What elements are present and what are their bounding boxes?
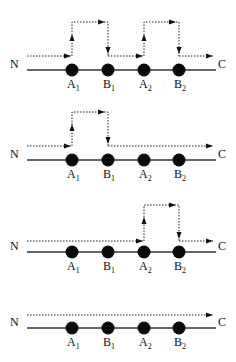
- node-b1: [102, 322, 115, 335]
- arrowhead-icon: [142, 34, 147, 41]
- arrowhead-icon: [70, 34, 75, 41]
- arrowhead-icon: [136, 239, 143, 244]
- node-label-b2: B2: [174, 259, 186, 275]
- node-b2: [173, 322, 186, 335]
- bypass-diagram: NCA1B1A2B2NCA1B1A2B2NCA1B1A2B2NCA1B1A2B2: [0, 0, 236, 362]
- node-b2: [173, 64, 186, 77]
- node-label-b1: B1: [103, 259, 115, 275]
- end-label: C: [218, 147, 226, 161]
- node-label-b2: B2: [174, 77, 186, 93]
- node-b1: [102, 154, 115, 167]
- node-b2: [173, 154, 186, 167]
- node-b1: [102, 64, 115, 77]
- node-a2: [138, 154, 151, 167]
- node-a2: [138, 246, 151, 259]
- node-label-a1: A1: [67, 335, 80, 351]
- node-a1: [66, 64, 79, 77]
- node-label-a2: A2: [139, 259, 152, 275]
- node-label-a2: A2: [139, 167, 152, 183]
- flow-path: [27, 22, 213, 56]
- arrowhead-icon: [98, 20, 105, 25]
- start-label: N: [10, 57, 19, 71]
- node-a1: [66, 154, 79, 167]
- arrowhead-icon: [169, 203, 176, 208]
- node-a1: [66, 322, 79, 335]
- node-a2: [138, 322, 151, 335]
- arrowhead-icon: [206, 313, 213, 318]
- node-label-b2: B2: [174, 335, 186, 351]
- arrowhead-icon: [206, 239, 213, 244]
- panel-4: NCA1B1A2B2: [10, 313, 226, 352]
- node-a1: [66, 246, 79, 259]
- panel-2: NCA1B1A2B2: [10, 110, 226, 184]
- node-label-a2: A2: [139, 335, 152, 351]
- node-label-a1: A1: [67, 167, 80, 183]
- node-b1: [102, 246, 115, 259]
- node-label-a1: A1: [67, 77, 80, 93]
- end-label: C: [218, 239, 226, 253]
- end-label: C: [218, 315, 226, 329]
- arrowhead-icon: [177, 47, 182, 54]
- arrowhead-icon: [64, 54, 71, 59]
- arrowhead-icon: [206, 144, 213, 149]
- node-label-a1: A1: [67, 259, 80, 275]
- arrowhead-icon: [136, 54, 143, 59]
- arrowhead-icon: [169, 20, 176, 25]
- arrowhead-icon: [142, 217, 147, 224]
- flow-path: [27, 112, 213, 146]
- arrowhead-icon: [177, 232, 182, 239]
- arrowhead-icon: [64, 144, 71, 149]
- start-label: N: [10, 147, 19, 161]
- start-label: N: [10, 239, 19, 253]
- flow-path: [27, 205, 213, 241]
- arrowhead-icon: [70, 124, 75, 131]
- end-label: C: [218, 57, 226, 71]
- node-label-b1: B1: [103, 167, 115, 183]
- node-label-a2: A2: [139, 77, 152, 93]
- arrowhead-icon: [106, 137, 111, 144]
- arrowhead-icon: [98, 110, 105, 115]
- node-b2: [173, 246, 186, 259]
- node-label-b2: B2: [174, 167, 186, 183]
- node-label-b1: B1: [103, 77, 115, 93]
- node-label-b1: B1: [103, 335, 115, 351]
- arrowhead-icon: [106, 47, 111, 54]
- panel-1: NCA1B1A2B2: [10, 20, 226, 94]
- node-a2: [138, 64, 151, 77]
- arrowhead-icon: [206, 54, 213, 59]
- start-label: N: [10, 315, 19, 329]
- panel-3: NCA1B1A2B2: [10, 203, 226, 276]
